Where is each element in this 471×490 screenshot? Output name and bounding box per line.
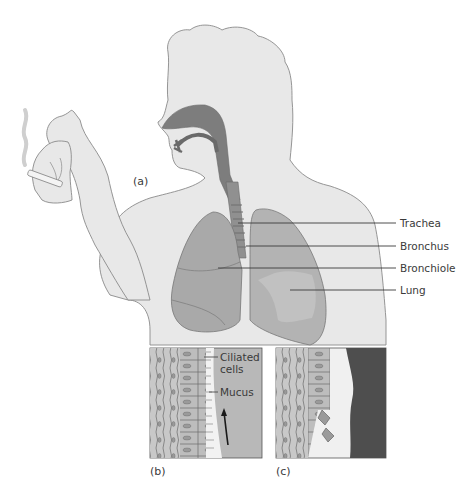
panel-label-c: (c) [276, 466, 291, 477]
respiratory-diagram: (a) (b) (c) Trachea Bronchus Bronchiole … [0, 0, 471, 490]
smoke-icon [24, 110, 27, 165]
label-trachea: Trachea [400, 218, 441, 229]
label-ciliated-cells-1: Ciliated [220, 352, 260, 363]
label-mucus: Mucus [220, 387, 254, 398]
label-lung: Lung [400, 285, 426, 296]
panel-label-b: (b) [150, 466, 166, 477]
panel-c-illustration [276, 348, 386, 458]
label-bronchus: Bronchus [400, 241, 449, 252]
label-bronchiole: Bronchiole [400, 263, 456, 274]
panel-label-a: (a) [133, 176, 148, 187]
panel-b-illustration [150, 348, 262, 458]
label-ciliated-cells-2: cells [220, 364, 244, 375]
